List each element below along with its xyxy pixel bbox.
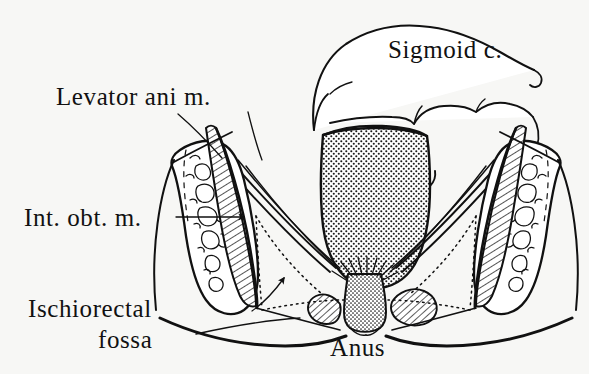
anatomical-figure: Sigmoid c. Levator ani m. Int. obt. m. I… (0, 0, 589, 374)
label-internal-obturator: Int. obt. m. (24, 204, 142, 231)
label-sigmoid-colon: Sigmoid c. (388, 36, 502, 63)
label-levator-ani: Levator ani m. (56, 83, 211, 110)
sphincter-left (308, 294, 341, 324)
figure-canvas: Sigmoid c. Levator ani m. Int. obt. m. I… (0, 0, 589, 374)
label-ischiorectal-fossa-line1: Ischiorectal (28, 295, 152, 322)
label-ischiorectal-fossa-line2: fossa (98, 326, 152, 353)
label-anus: Anus (330, 334, 385, 361)
